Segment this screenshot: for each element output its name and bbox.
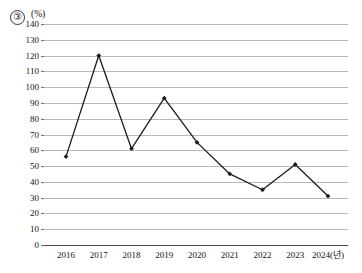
series-polyline (66, 56, 328, 196)
data-series-line (44, 24, 348, 245)
y-tick-label: 50 (30, 162, 39, 171)
x-tick-label: 2024(년) (312, 251, 344, 260)
x-tick-label: 2021 (221, 251, 239, 260)
y-tick-label: 90 (30, 98, 39, 107)
x-tick-label: 2017 (90, 251, 108, 260)
y-tick-label: 80 (30, 114, 39, 123)
y-tick-label: 20 (30, 209, 39, 218)
plot-area: 0102030405060708090100110120130140 20162… (44, 24, 348, 245)
y-tick-label: 70 (30, 130, 39, 139)
x-tick-label: 2020 (188, 251, 206, 260)
y-tick-label: 120 (26, 51, 40, 60)
y-tick-label: 60 (30, 146, 39, 155)
y-tick-label: 10 (30, 225, 39, 234)
x-tick-label: 2019 (155, 251, 173, 260)
y-tick-label: 110 (26, 67, 39, 76)
y-tick-label: 130 (26, 35, 40, 44)
y-tick-label: 40 (30, 177, 39, 186)
x-tick-label: 2018 (123, 251, 141, 260)
y-tick-mark (41, 245, 44, 246)
y-tick-label: 100 (26, 83, 40, 92)
y-axis-unit-label: (%) (31, 9, 45, 19)
y-tick-label: 140 (26, 20, 40, 29)
x-tick-label: 2016 (57, 251, 75, 260)
y-tick-label: 30 (30, 193, 39, 202)
x-tick-label: 2022 (254, 251, 272, 260)
data-point-marker (96, 53, 101, 58)
y-tick-label: 0 (35, 241, 40, 250)
data-point-marker (64, 154, 69, 159)
chart-figure: ③ (%) 0102030405060708090100110120130140… (0, 0, 362, 273)
x-tick-label: 2023 (286, 251, 304, 260)
item-number-badge: ③ (10, 10, 25, 25)
axis-baseline (44, 245, 348, 246)
